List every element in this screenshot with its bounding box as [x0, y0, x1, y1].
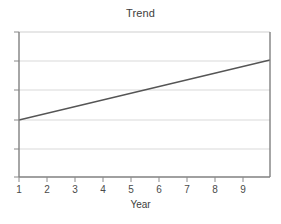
xtick-label-7: 7: [177, 184, 197, 195]
xtick-label-8: 8: [205, 184, 225, 195]
xtick-label-6: 6: [149, 184, 169, 195]
xtick-label-9: 9: [233, 184, 253, 195]
xtick-label-4: 4: [93, 184, 113, 195]
xtick-label-1: 1: [9, 184, 29, 195]
xtick-label-5: 5: [121, 184, 141, 195]
xtick-label-2: 2: [37, 184, 57, 195]
xaxis-ticks: [19, 177, 243, 182]
xaxis-title: Year: [0, 199, 281, 210]
xtick-label-3: 3: [65, 184, 85, 195]
yaxis-ticks: [14, 32, 19, 177]
chart-container: Trend: [0, 0, 281, 224]
